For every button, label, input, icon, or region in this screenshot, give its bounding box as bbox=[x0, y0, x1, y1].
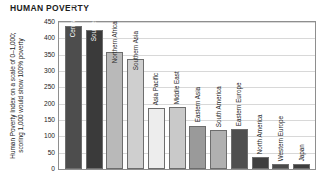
bar[interactable]: South America bbox=[210, 130, 227, 169]
chart-title: HUMAN POVERTY bbox=[10, 3, 89, 13]
y-axis-title: Human Poverty Index on a scale of 0–1,00… bbox=[9, 16, 24, 176]
bar-category-label: Eastern Asia bbox=[195, 87, 201, 122]
bar[interactable]: Eastern Asia bbox=[189, 126, 206, 169]
y-tick-label: 250 bbox=[44, 84, 55, 91]
bar[interactable]: Japan bbox=[293, 164, 310, 169]
bar-category-label: Japan bbox=[298, 144, 304, 161]
y-tick-label: 150 bbox=[44, 117, 55, 124]
y-tick-label: 300 bbox=[44, 68, 55, 75]
bar-slot: Japan bbox=[291, 22, 312, 169]
bar-slot: Southern Africa bbox=[84, 22, 105, 169]
chart-container: HUMAN POVERTY Human Poverty Index on a s… bbox=[0, 0, 323, 187]
bar-category-label: Northern Africa bbox=[112, 22, 118, 64]
bar[interactable]: Middle East bbox=[169, 107, 186, 169]
bar-slot: Western Europe bbox=[271, 22, 292, 169]
bar[interactable]: Northern Africa bbox=[106, 52, 123, 169]
bar[interactable]: North America bbox=[252, 157, 269, 169]
bar-series: Central AfricaSouthern AfricaNorthern Af… bbox=[59, 22, 315, 169]
bar-slot: Central Africa bbox=[63, 22, 84, 169]
y-tick-label: 450 bbox=[44, 19, 55, 26]
bar[interactable]: Southern Africa bbox=[86, 30, 103, 169]
y-tick-label: 100 bbox=[44, 133, 55, 140]
bar-category-label: Southern Africa bbox=[91, 0, 97, 41]
y-tick-label: 0 bbox=[51, 166, 55, 173]
plot-area: Central AfricaSouthern AfricaNorthern Af… bbox=[58, 21, 316, 170]
bar[interactable]: Southern Asia bbox=[127, 59, 144, 169]
bar[interactable]: Eastern Europe bbox=[231, 129, 248, 169]
bar-category-label: Western Europe bbox=[278, 116, 284, 161]
y-tick-label: 400 bbox=[44, 35, 55, 42]
bar-slot: Southern Asia bbox=[125, 22, 146, 169]
y-tick-label: 350 bbox=[44, 51, 55, 58]
bar-category-label: Central Africa bbox=[70, 0, 76, 38]
bar-category-label: Asia Pacific bbox=[153, 72, 159, 105]
y-axis-tick-labels: 450400350300250200150100500 bbox=[31, 21, 55, 170]
bar-category-label: North America bbox=[257, 114, 263, 154]
bar-slot: Northern Africa bbox=[105, 22, 126, 169]
bar-slot: Middle East bbox=[167, 22, 188, 169]
bar-category-label: Middle East bbox=[174, 71, 180, 104]
bar-category-label: Eastern Europe bbox=[236, 82, 242, 126]
y-tick-label: 200 bbox=[44, 100, 55, 107]
bar[interactable]: Central Africa bbox=[65, 26, 82, 169]
bar-slot: Eastern Europe bbox=[229, 22, 250, 169]
bar-slot: North America bbox=[250, 22, 271, 169]
bar-category-label: Southern Asia bbox=[132, 31, 138, 70]
bar-slot: South America bbox=[208, 22, 229, 169]
bar-category-label: South America bbox=[215, 86, 221, 127]
bar[interactable]: Western Europe bbox=[272, 164, 289, 169]
bar-slot: Asia Pacific bbox=[146, 22, 167, 169]
bar-slot: Eastern Asia bbox=[188, 22, 209, 169]
bar[interactable]: Asia Pacific bbox=[148, 108, 165, 169]
y-tick-label: 50 bbox=[48, 149, 55, 156]
